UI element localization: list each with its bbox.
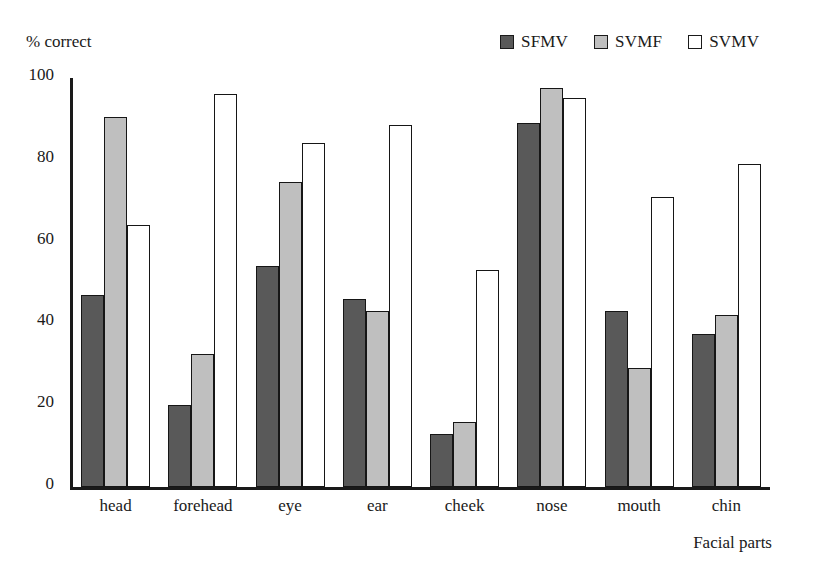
- bar-group-mouth: [596, 78, 683, 487]
- bar-ear-svmv[interactable]: [389, 125, 412, 487]
- bar-group-ear: [334, 78, 421, 487]
- bar-chart: % correct SFMVSVMFSVMV 020406080100 head…: [0, 0, 814, 578]
- x-tick-label-ear: ear: [367, 496, 388, 516]
- bar-ear-svmf[interactable]: [366, 311, 389, 487]
- bar-mouth-sfmv[interactable]: [605, 311, 628, 487]
- legend-label: SVMF: [615, 32, 662, 52]
- legend-label: SFMV: [521, 32, 568, 52]
- y-tick-label: 40: [37, 311, 54, 328]
- x-axis-title: Facial parts: [693, 533, 772, 553]
- bar-group-chin: [683, 78, 770, 487]
- bar-head-sfmv[interactable]: [81, 295, 104, 487]
- bar-ear-sfmv[interactable]: [343, 299, 366, 487]
- bar-group-eye: [247, 78, 334, 487]
- legend-swatch-icon: [500, 35, 514, 49]
- legend-swatch-icon: [594, 35, 608, 49]
- bar-forehead-svmf[interactable]: [191, 354, 214, 487]
- bar-group-cheek: [421, 78, 508, 487]
- bar-eye-svmv[interactable]: [302, 143, 325, 487]
- x-tick-label-head: head: [100, 496, 132, 516]
- legend-item-svmf[interactable]: SVMF: [594, 32, 662, 52]
- bar-group-head: [72, 78, 159, 487]
- bar-group-nose: [508, 78, 595, 487]
- y-axis-title: % correct: [26, 32, 92, 52]
- legend-label: SVMV: [709, 32, 759, 52]
- bar-forehead-svmv[interactable]: [214, 94, 237, 487]
- y-tick-label: 20: [37, 393, 54, 410]
- x-axis-category-labels: headforeheadeyeearcheeknosemouthchin: [72, 496, 772, 520]
- bar-chin-svmf[interactable]: [715, 315, 738, 487]
- bar-cheek-sfmv[interactable]: [430, 434, 453, 487]
- bar-eye-svmf[interactable]: [279, 182, 302, 487]
- x-tick-label-eye: eye: [278, 496, 302, 516]
- bar-forehead-sfmv[interactable]: [168, 405, 191, 487]
- plot-area: 020406080100: [70, 78, 770, 487]
- bar-cheek-svmf[interactable]: [453, 422, 476, 487]
- x-tick-label-mouth: mouth: [617, 496, 660, 516]
- bar-cheek-svmv[interactable]: [476, 270, 499, 487]
- bar-chin-sfmv[interactable]: [692, 334, 715, 487]
- x-tick-label-nose: nose: [536, 496, 567, 516]
- bar-mouth-svmf[interactable]: [628, 368, 651, 487]
- legend-item-svmv[interactable]: SVMV: [688, 32, 759, 52]
- bar-group-forehead: [159, 78, 246, 487]
- x-axis-line: [70, 487, 770, 490]
- legend-item-sfmv[interactable]: SFMV: [500, 32, 568, 52]
- bar-chin-svmv[interactable]: [738, 164, 761, 487]
- bar-nose-svmf[interactable]: [540, 88, 563, 487]
- y-tick-label: 80: [37, 148, 54, 165]
- y-tick-label: 60: [37, 230, 54, 247]
- bar-eye-sfmv[interactable]: [256, 266, 279, 487]
- legend-swatch-icon: [688, 35, 702, 49]
- bar-nose-svmv[interactable]: [563, 98, 586, 487]
- y-tick-label: 0: [46, 475, 55, 492]
- bar-head-svmv[interactable]: [127, 225, 150, 487]
- y-tick-label: 100: [29, 66, 55, 83]
- bars-layer: [72, 78, 770, 487]
- bar-nose-sfmv[interactable]: [517, 123, 540, 487]
- bar-head-svmf[interactable]: [104, 117, 127, 487]
- x-tick-label-forehead: forehead: [173, 496, 232, 516]
- chart-legend: SFMVSVMFSVMV: [500, 32, 759, 52]
- bar-mouth-svmv[interactable]: [651, 197, 674, 487]
- x-tick-label-cheek: cheek: [445, 496, 485, 516]
- x-tick-label-chin: chin: [712, 496, 741, 516]
